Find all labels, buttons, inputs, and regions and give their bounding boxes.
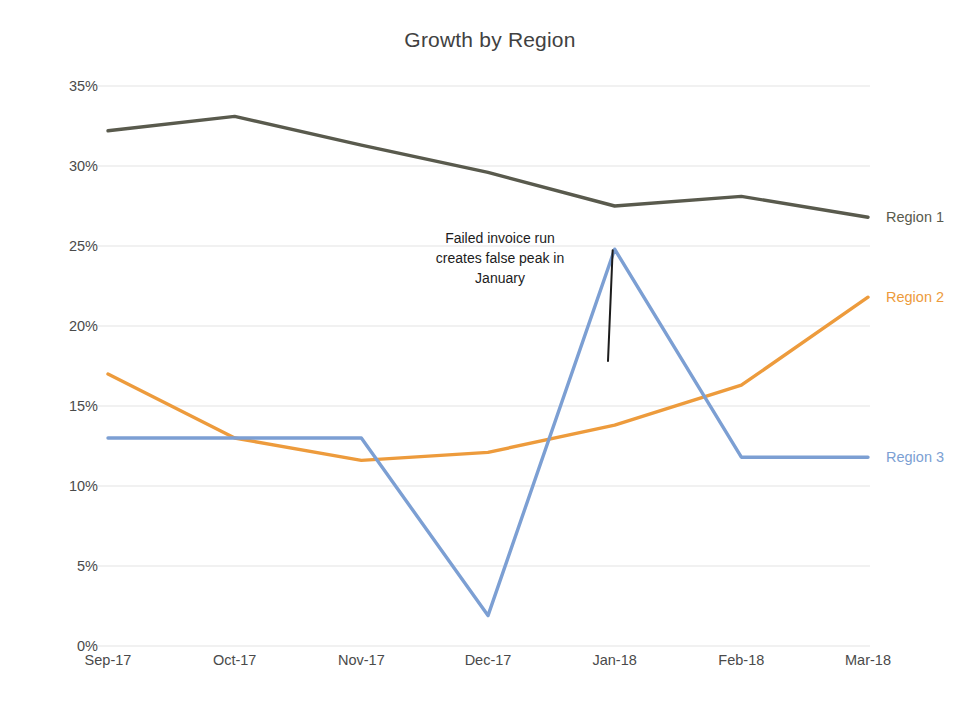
y-axis-tick-label: 15% <box>42 398 98 414</box>
x-axis-tick-label: Mar-18 <box>808 652 928 668</box>
y-axis-tick-label: 10% <box>42 478 98 494</box>
y-axis-tick-label: 5% <box>42 558 98 574</box>
x-axis-tick-label: Oct-17 <box>175 652 295 668</box>
plot-area <box>108 86 868 646</box>
x-axis-tick-labels: Sep-17Oct-17Nov-17Dec-17Jan-18Feb-18Mar-… <box>108 652 868 678</box>
plot-svg <box>108 86 868 646</box>
series-label-region-3: Region 3 <box>886 449 944 465</box>
y-axis-tick-label: 30% <box>42 158 98 174</box>
series-label-region-1: Region 1 <box>886 209 944 225</box>
x-axis-tick-label: Sep-17 <box>48 652 168 668</box>
y-axis-tick-label: 20% <box>42 318 98 334</box>
annotation-text-line: creates false peak in <box>392 248 608 268</box>
annotation-text-line: Failed invoice run <box>392 228 608 248</box>
x-axis-tick-label: Dec-17 <box>428 652 548 668</box>
annotation-false-peak: Failed invoice runcreates false peak inJ… <box>392 228 608 288</box>
x-axis-tick-label: Jan-18 <box>555 652 675 668</box>
x-axis-tick-label: Nov-17 <box>301 652 421 668</box>
x-axis-tick-label: Feb-18 <box>681 652 801 668</box>
chart-title: Growth by Region <box>0 28 980 52</box>
series-line-region-2[interactable] <box>108 297 868 460</box>
y-axis-tick-labels: 0%5%10%15%20%25%30%35% <box>36 86 98 646</box>
y-axis-tick-label: 25% <box>42 238 98 254</box>
chart-container: Growth by Region 0%5%10%15%20%25%30%35% … <box>0 0 980 718</box>
series-lines <box>108 116 868 615</box>
series-label-region-2: Region 2 <box>886 289 944 305</box>
annotation-text-line: January <box>392 268 608 288</box>
y-axis-tick-label: 35% <box>42 78 98 94</box>
series-line-region-1[interactable] <box>108 116 868 217</box>
